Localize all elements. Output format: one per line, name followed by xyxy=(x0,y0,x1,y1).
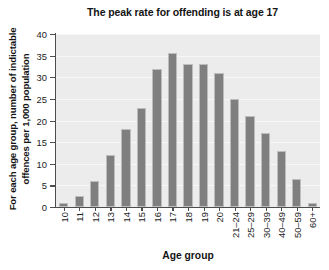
y-tick-mark xyxy=(50,207,55,208)
gridline xyxy=(56,56,320,57)
x-tick-label: 11 xyxy=(79,202,90,212)
y-tick-mark xyxy=(50,185,55,186)
x-tick-label: 13 xyxy=(110,202,121,212)
x-tick-label: 25–29 xyxy=(250,186,261,212)
y-tick-label: 25 xyxy=(27,93,47,104)
x-tick-label: 20 xyxy=(219,202,230,212)
y-tick-label: 35 xyxy=(27,50,47,61)
bar xyxy=(106,155,115,207)
x-tick-label: 30–39 xyxy=(266,186,277,212)
y-tick-mark xyxy=(50,142,55,143)
bar-chart-figure: The peak rate for offending is at age 17… xyxy=(0,0,329,270)
y-tick-mark xyxy=(50,164,55,165)
bar xyxy=(152,69,161,207)
plot-area xyxy=(56,34,320,207)
y-tick-label: 15 xyxy=(27,137,47,148)
x-tick-label: 50–59 xyxy=(297,186,308,212)
bar xyxy=(183,64,192,207)
x-tick-label: 15 xyxy=(141,202,152,212)
y-tick-mark xyxy=(50,99,55,100)
y-tick-mark xyxy=(50,121,55,122)
bar xyxy=(168,53,177,207)
y-tick-label: 5 xyxy=(27,180,47,191)
y-axis-line xyxy=(55,33,56,208)
x-tick-label: 17 xyxy=(172,202,183,212)
x-axis-title: Age group xyxy=(56,250,320,261)
bar xyxy=(121,129,130,207)
bar xyxy=(214,73,223,207)
bar xyxy=(199,64,208,207)
x-tick-label: 10 xyxy=(64,202,75,212)
bar xyxy=(137,108,146,207)
x-tick-label: 40–49 xyxy=(281,186,292,212)
x-tick-label: 14 xyxy=(126,202,137,212)
x-tick-label: 16 xyxy=(157,202,168,212)
y-tick-mark xyxy=(50,56,55,57)
x-tick-label: 19 xyxy=(204,202,215,212)
y-tick-label: 10 xyxy=(27,158,47,169)
x-tick-label: 60+ xyxy=(312,196,323,212)
y-tick-mark xyxy=(50,77,55,78)
y-axis-title-line-1: For each age group, number of indictable xyxy=(7,28,18,211)
gridline xyxy=(56,34,320,35)
x-tick-label: 12 xyxy=(95,202,106,212)
y-tick-label: 0 xyxy=(27,202,47,213)
y-axis-title: For each age group, number of indictable… xyxy=(0,26,30,212)
y-tick-mark xyxy=(50,34,55,35)
x-tick-label: 18 xyxy=(188,202,199,212)
x-tick-label: 21–24 xyxy=(235,186,246,212)
chart-title: The peak rate for offending is at age 17 xyxy=(40,6,325,18)
y-tick-label: 30 xyxy=(27,72,47,83)
y-tick-label: 40 xyxy=(27,29,47,40)
y-tick-label: 20 xyxy=(27,115,47,126)
